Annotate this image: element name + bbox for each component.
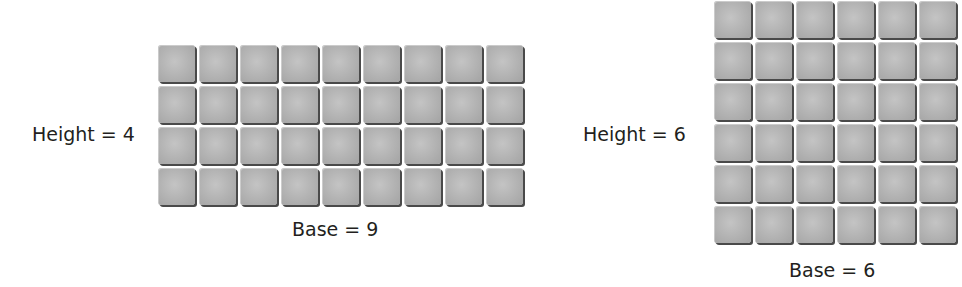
square-tile [877,0,918,41]
tile-face [240,127,277,164]
tile-face [919,42,956,79]
tile-face [404,86,441,123]
square-tile [795,82,836,123]
tile-face [199,127,236,164]
square-tile [918,82,959,123]
square-tile [836,205,877,246]
tile-face [837,206,874,243]
square-tile [713,41,754,82]
square-tile [836,0,877,41]
tile-grid-4x9 [157,44,526,208]
tile-face [796,83,833,120]
tile-face [404,45,441,82]
tile-face [486,127,523,164]
tile-grid-6x6 [713,0,959,246]
tile-face [796,206,833,243]
tile-face [755,42,792,79]
square-tile [157,167,198,208]
square-tile [713,164,754,205]
square-tile [280,85,321,126]
square-tile [198,126,239,167]
tile-face [878,42,915,79]
tile-face [445,86,482,123]
square-tile [877,41,918,82]
tile-face [363,168,400,205]
tile-face [714,1,751,38]
tile-face [158,127,195,164]
square-tile [280,126,321,167]
tile-face [158,45,195,82]
square-tile [321,126,362,167]
square-tile [795,205,836,246]
square-tile [280,167,321,208]
square-tile [444,126,485,167]
tile-face [755,165,792,202]
square-tile [918,205,959,246]
square-tile [239,126,280,167]
square-tile [877,205,918,246]
square-tile [713,205,754,246]
tile-face [322,127,359,164]
square-tile [198,44,239,85]
square-tile [485,167,526,208]
tile-face [445,127,482,164]
tile-face [158,168,195,205]
tile-face [363,45,400,82]
square-tile [877,164,918,205]
tile-face [755,1,792,38]
tile-face [878,206,915,243]
tile-face [919,83,956,120]
square-tile [239,44,280,85]
square-tile [836,123,877,164]
square-tile [321,167,362,208]
square-tile [403,85,444,126]
square-tile [754,164,795,205]
tile-face [837,42,874,79]
square-tile [836,164,877,205]
base-label-square: Base = 6 [789,259,875,281]
tile-face [486,45,523,82]
tile-face [281,45,318,82]
square-tile [485,44,526,85]
tile-face [878,165,915,202]
square-tile [754,205,795,246]
square-tile [239,85,280,126]
square-tile [198,167,239,208]
square-tile [795,41,836,82]
square-tile [198,85,239,126]
square-tile [754,82,795,123]
tile-face [714,165,751,202]
square-tile [485,85,526,126]
square-tile [754,123,795,164]
tile-face [796,42,833,79]
square-tile [321,44,362,85]
tile-face [158,86,195,123]
square-tile [485,126,526,167]
square-tile [362,44,403,85]
square-tile [157,126,198,167]
square-tile [795,164,836,205]
tile-face [404,168,441,205]
tile-face [404,127,441,164]
tile-face [714,124,751,161]
tile-face [281,168,318,205]
tile-face [199,168,236,205]
square-tile [795,123,836,164]
height-label-square: Height = 6 [583,123,686,145]
square-tile [403,167,444,208]
tile-face [755,206,792,243]
tile-face [363,127,400,164]
tile-face [714,42,751,79]
square-tile [754,41,795,82]
tile-face [837,83,874,120]
square-tile [836,41,877,82]
tile-face [878,124,915,161]
tile-face [796,1,833,38]
tile-face [199,45,236,82]
tile-face [322,168,359,205]
tile-face [445,168,482,205]
square-tile [157,85,198,126]
square-tile [362,85,403,126]
tile-face [445,45,482,82]
tile-face [919,206,956,243]
